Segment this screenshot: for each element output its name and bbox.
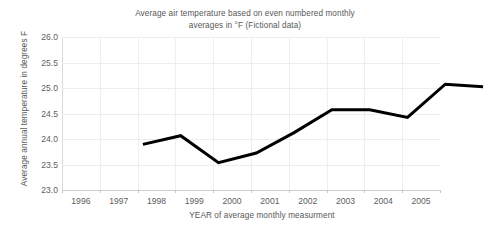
x-axis-tick-label: 2005 <box>401 196 441 206</box>
y-axis-tick-label: 24.5 <box>32 109 58 119</box>
x-axis-tick-label: 1999 <box>174 196 214 206</box>
x-axis-tickmark <box>440 190 441 193</box>
x-axis-tickmark <box>213 190 214 193</box>
chart-title-line-2: averages in °F (Fictional data) <box>95 20 395 32</box>
x-axis-tickmark <box>100 190 101 193</box>
x-axis-tick-label: 2000 <box>212 196 252 206</box>
x-axis-tickmark <box>251 190 252 193</box>
y-axis-tick-label: 26.0 <box>32 32 58 42</box>
x-axis-tick-label: 2004 <box>363 196 403 206</box>
x-axis-title: YEAR of average monthly measurment <box>84 211 440 220</box>
x-axis-tickmark <box>289 190 290 193</box>
x-axis-tickmark <box>175 190 176 193</box>
x-axis-tick-label: 2003 <box>326 196 366 206</box>
x-axis-tickmark <box>138 190 139 193</box>
y-axis-tick-label: 23.5 <box>32 160 58 170</box>
chart-title: Average air temperature based on even nu… <box>95 8 395 32</box>
x-axis-tickmark <box>402 190 403 193</box>
y-axis-tick-label: 24.0 <box>32 134 58 144</box>
chart-title-line-1: Average air temperature based on even nu… <box>95 8 395 20</box>
y-axis-tick-label: 25.5 <box>32 58 58 68</box>
x-axis-tickmark <box>327 190 328 193</box>
y-axis-tick-label: 23.0 <box>32 185 58 195</box>
x-axis-tick-label: 1998 <box>137 196 177 206</box>
y-axis-tick-label: 25.0 <box>32 83 58 93</box>
x-axis-tick-label: 2001 <box>250 196 290 206</box>
x-axis-tick-label: 1996 <box>61 196 101 206</box>
x-axis-tick-labels: 1996199719981999200020012002200320042005 <box>62 196 440 210</box>
plot-area <box>62 37 440 190</box>
gridline-vertical <box>100 37 101 190</box>
x-axis-tick-label: 2002 <box>288 196 328 206</box>
x-axis-tickmark <box>62 190 63 193</box>
y-axis-tick-labels: 26.025.525.024.524.023.523.0 <box>28 37 58 190</box>
x-axis-tickmark <box>364 190 365 193</box>
x-axis-tick-label: 1997 <box>99 196 139 206</box>
